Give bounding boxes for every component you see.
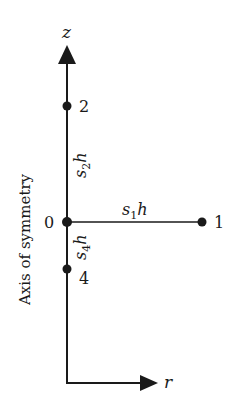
segment-s2h-label: s2h — [71, 152, 93, 178]
node-0-label: 0 — [44, 213, 54, 232]
finite-difference-stencil-diagram: z r 2 0 4 1 s1h s2h s4h Axis of symmetry — [0, 0, 236, 414]
r-axis-arrowhead-icon — [140, 375, 158, 391]
node-2-label: 2 — [79, 97, 89, 116]
node-2 — [63, 102, 72, 111]
segment-s1h-label: s1h — [122, 200, 148, 222]
node-0 — [62, 217, 72, 227]
node-4 — [63, 265, 72, 274]
node-1 — [198, 218, 207, 227]
r-axis-label: r — [164, 372, 173, 392]
axis-of-symmetry-label: Axis of symmetry — [16, 173, 34, 306]
node-4-label: 4 — [79, 269, 89, 288]
z-axis-label: z — [61, 22, 72, 42]
segment-s4h-label: s4h — [71, 234, 93, 260]
node-1-label: 1 — [214, 213, 224, 232]
z-axis-arrowhead-icon — [58, 45, 76, 64]
